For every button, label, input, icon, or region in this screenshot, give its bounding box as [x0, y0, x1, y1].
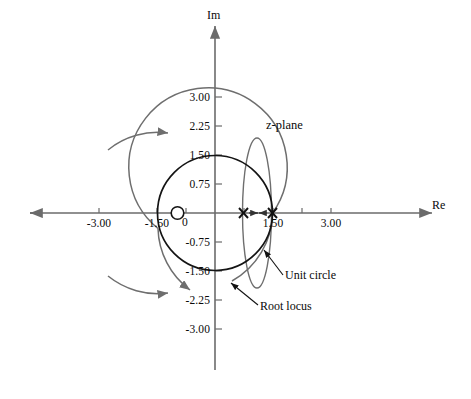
- root-locus-lower-arrow: [108, 276, 168, 294]
- axis-label-re: Re: [432, 198, 445, 213]
- ytick-neg1-5: -1.50: [173, 265, 210, 277]
- xtick-neg1-5: -1.50: [145, 217, 169, 229]
- plot-canvas: [0, 0, 471, 399]
- unit-circle-annotation: Unit circle: [285, 268, 336, 283]
- root-locus-figure: Re Im -3.00 -1.50 1.50 3.00 0 3.00 2.25 …: [0, 0, 471, 399]
- ytick-pos2-25: 2.25: [178, 120, 210, 132]
- plane-label: z-plane: [266, 118, 303, 133]
- xtick-neg3: -3.00: [87, 217, 111, 229]
- ytick-pos0-75: 0.75: [178, 178, 210, 190]
- axis-label-im: Im: [207, 8, 220, 23]
- root-locus-upper-arrow: [108, 132, 168, 150]
- origin-label: 0: [170, 216, 200, 228]
- ytick-neg3: -3.00: [173, 323, 210, 335]
- ytick-pos1-5: 1.50: [178, 149, 210, 161]
- ytick-pos3: 3.00: [178, 91, 210, 103]
- ytick-neg0-75: -0.75: [173, 236, 210, 248]
- xtick-pos3: 3.00: [321, 217, 342, 229]
- ytick-neg2-25: -2.25: [173, 294, 210, 306]
- xtick-pos1-5: 1.50: [263, 217, 284, 229]
- root-locus-annotation: Root locus: [260, 299, 312, 314]
